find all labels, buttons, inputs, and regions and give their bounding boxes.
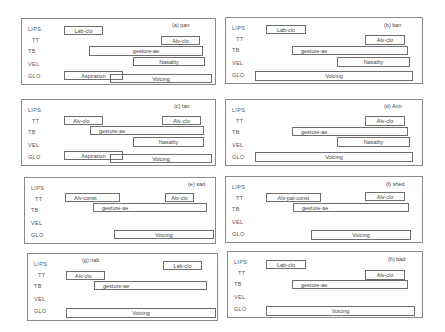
- gesture-label: Nasality: [159, 59, 179, 65]
- gesture-box-gesture-ae: gesture-ae: [292, 46, 408, 55]
- gesture-box-alv-clo: Alv-clo: [162, 116, 201, 125]
- gesture-box-gesture-ae: gesture-ae: [292, 280, 408, 289]
- tier-label-vel: VEL: [232, 219, 243, 225]
- tier-label-glo: GLO: [232, 231, 245, 237]
- gesture-label: Alv-pal-const: [278, 195, 310, 201]
- gesture-box-gesture-ae: gesture-ae: [293, 203, 409, 212]
- gesture-label: Voicing: [155, 232, 173, 238]
- gesture-label: Lab-clo: [173, 263, 191, 269]
- tier-label-tb: TB: [232, 129, 240, 135]
- gesture-box-voicing: Voicing: [110, 154, 212, 163]
- tier-label-tt: TT: [236, 36, 243, 42]
- gesture-label: Voicing: [352, 232, 370, 238]
- gesture-label: Aspiration: [81, 153, 105, 159]
- gesture-label: Lab-clo: [277, 262, 295, 268]
- gesture-box-gesture-ae: gesture-ae: [93, 203, 207, 212]
- tier-label-lips: LIPS: [31, 185, 44, 191]
- gesture-box-voicing: Voicing: [110, 74, 212, 83]
- gestural-score-panel-e: (e) sadLIPSTTTBVELGLOAlv-constAlv-cloges…: [24, 177, 216, 244]
- gestural-score-panel-c: (c) tanLIPSTTTBVELGLOAlv-cloAlv-clogestu…: [21, 99, 216, 166]
- gesture-label: gesture-ae: [293, 129, 327, 135]
- gesture-label: Lab-clo: [277, 27, 295, 33]
- gesture-box-alv-pal-const: Alv-pal-const: [266, 193, 321, 202]
- gesture-box-nasality: Nasality: [337, 57, 410, 67]
- tier-label-glo: GLO: [232, 72, 245, 78]
- tier-label-vel: VEL: [232, 60, 243, 66]
- gesture-label: Alv-clo: [67, 273, 92, 279]
- gestural-score-panel-b: (b) banLIPSTTTBVELGLOLab-cloAlv-clogestu…: [225, 17, 423, 84]
- gesture-label: Alv-clo: [65, 118, 90, 124]
- gesture-box-voicing: Voicing: [255, 152, 413, 162]
- gestural-score-panel-g: (g) nabLIPSTTTBVELGLOLab-cloAlv-clogestu…: [27, 253, 218, 321]
- gesture-box-lab-clo: Lab-clo: [64, 26, 103, 35]
- tier-label-vel: VEL: [232, 142, 243, 148]
- gesture-box-nasality: Nasality: [133, 137, 204, 147]
- gesture-box-alv-clo: Alv-clo: [365, 192, 405, 201]
- panel-title: (g) nab: [82, 257, 99, 263]
- gesture-box-gesture-ae: gesture-ae: [292, 127, 408, 136]
- tier-label-tt: TT: [35, 196, 42, 202]
- gesture-label: Alv-clo: [173, 118, 190, 124]
- tier-label-vel: VEL: [28, 61, 39, 67]
- gesture-box-alv-clo: Alv-clo: [165, 193, 194, 202]
- tier-label-lips: LIPS: [28, 26, 41, 32]
- gesture-label: gesture-ae: [293, 282, 327, 288]
- gesture-label: Alv-clo: [377, 194, 394, 200]
- tier-label-glo: GLO: [31, 232, 44, 238]
- tier-label-tt: TT: [32, 118, 39, 124]
- gesture-box-alv-clo: Alv-clo: [365, 116, 405, 126]
- tier-label-tb: TB: [31, 207, 39, 213]
- gesture-box-voicing: Voicing: [66, 308, 216, 318]
- gesture-label: Voicing: [325, 154, 343, 160]
- gesture-box-aspiration: Aspiration: [64, 151, 123, 160]
- panel-title: (d) Ann: [384, 103, 402, 109]
- gesture-box-nasality: Nasality: [133, 57, 205, 66]
- gesture-box-alv-clo: Alv-clo: [161, 36, 200, 45]
- panel-title: (b) ban: [384, 22, 401, 28]
- tier-label-tb: TB: [28, 129, 36, 135]
- gesture-box-alv-clo: Alv-clo: [365, 35, 405, 45]
- gesture-box-voicing: Voicing: [114, 230, 214, 239]
- gesture-label: gesture-ae: [91, 128, 125, 134]
- gesture-box-lab-clo: Lab-clo: [266, 260, 306, 269]
- gesture-box-voicing: Voicing: [255, 71, 413, 81]
- gesture-label: Voicing: [325, 73, 343, 79]
- gesture-label: Voicing: [152, 76, 170, 82]
- gesture-label: Alv-clo: [172, 38, 189, 44]
- gesture-label: Alv-clo: [377, 272, 394, 278]
- tier-label-glo: GLO: [34, 308, 47, 314]
- tier-label-tt: TT: [236, 118, 243, 124]
- tier-label-glo: GLO: [232, 154, 245, 160]
- tier-label-vel: VEL: [28, 142, 39, 148]
- tier-label-glo: GLO: [234, 306, 247, 312]
- tier-label-tt: TT: [38, 272, 45, 278]
- gesture-label: gesture-ae: [133, 48, 159, 54]
- gesture-label: gesture-ae: [294, 205, 328, 211]
- tier-label-lips: LIPS: [234, 259, 247, 265]
- tier-label-glo: GLO: [28, 154, 41, 160]
- tier-label-lips: LIPS: [28, 107, 41, 113]
- panel-title: (f) shed: [386, 181, 405, 187]
- gesture-label: gesture-ae: [94, 205, 128, 211]
- gesture-label: Alv-clo: [171, 195, 188, 201]
- tier-label-tb: TB: [34, 283, 42, 289]
- gestural-score-panel-h: (h) badLIPSTTTBVELGLOLab-cloAlv-clogestu…: [227, 251, 423, 318]
- gestural-score-panel-d: (d) AnnLIPSTTTBVELGLOAlv-clogesture-aeNa…: [225, 99, 423, 166]
- gesture-label: gesture-ae: [95, 283, 129, 289]
- gesture-label: Aspiration: [81, 73, 105, 79]
- gesture-box-alv-const: Alv-const: [65, 193, 120, 202]
- gesture-box-aspiration: Aspiration: [64, 71, 123, 80]
- tier-label-lips: LIPS: [232, 25, 245, 31]
- tier-label-glo: GLO: [28, 73, 41, 79]
- panel-title: (a) pan: [172, 22, 189, 28]
- gesture-label: Lab-clo: [74, 28, 92, 34]
- tier-label-lips: LIPS: [34, 261, 47, 267]
- tier-label-tb: TB: [232, 47, 240, 53]
- tier-label-vel: VEL: [31, 220, 42, 226]
- gestural-score-panel-a: (a) panLIPSTTTBVELGLOLab-cloAlv-clogestu…: [21, 18, 216, 85]
- gesture-box-alv-clo: Alv-clo: [66, 271, 105, 280]
- tier-label-tb: TB: [232, 206, 240, 212]
- tier-label-tb: TB: [234, 281, 242, 287]
- gesture-box-voicing: Voicing: [311, 230, 411, 240]
- gesture-label: Voicing: [152, 156, 170, 162]
